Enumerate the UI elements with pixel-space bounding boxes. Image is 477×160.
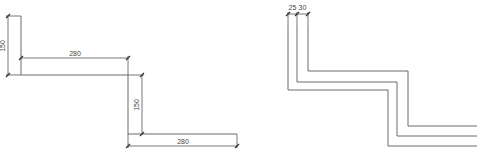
left-drawing: 150 280 150 280 — [0, 14, 239, 148]
dim-label-middle-rise: 150 — [133, 99, 140, 111]
dim-top-run: 280 — [19, 50, 130, 75]
dim-label-top-rise: 150 — [0, 40, 6, 52]
dim-bottom-run: 280 — [126, 134, 239, 148]
dim-label-top-run: 280 — [69, 50, 81, 57]
outer-offset-line — [288, 26, 477, 146]
dim-label-offset-1: 25 — [289, 4, 297, 11]
middle-line — [297, 26, 477, 136]
dim-offsets: 25 30 — [286, 4, 310, 26]
dim-top-rise: 150 — [0, 14, 21, 77]
dim-label-offset-2: 30 — [299, 4, 307, 11]
right-drawing: 25 30 — [286, 4, 477, 146]
dim-middle-rise: 150 — [128, 73, 144, 136]
drawing-canvas: 150 280 150 280 — [0, 0, 477, 160]
inner-offset-line — [308, 26, 477, 126]
dim-label-bottom-run: 280 — [177, 138, 189, 145]
